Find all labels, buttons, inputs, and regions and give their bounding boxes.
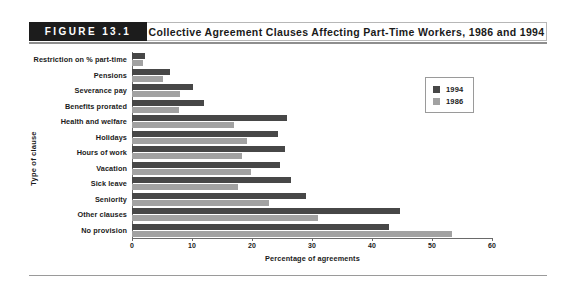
bar-1994: [132, 84, 193, 90]
y-axis-tick-label: Health and welfare: [0, 114, 127, 130]
chart-category-row: Seniority: [132, 192, 492, 208]
bar-1986: [132, 153, 242, 159]
bar-1986: [132, 200, 269, 206]
chart-category-row: Hours of work: [132, 145, 492, 161]
legend-swatch-icon: [433, 86, 440, 93]
y-axis-tick-label: No provision: [0, 223, 127, 239]
y-axis-tick-label: Sick leave: [0, 176, 127, 192]
y-axis-tick-label: Benefits prorated: [0, 99, 127, 115]
header-divider: [29, 42, 547, 44]
bar-1994: [132, 177, 291, 183]
bar-1994: [132, 162, 280, 168]
bar-1986: [132, 138, 247, 144]
x-axis-tick: [492, 238, 493, 241]
chart-category-row: No provision: [132, 223, 492, 239]
x-axis-tick: [312, 238, 313, 241]
bar-1986: [132, 122, 234, 128]
bar-1994: [132, 131, 278, 137]
bar-1994: [132, 100, 204, 106]
x-axis-tick-label: 50: [417, 242, 447, 249]
x-axis-tick: [372, 238, 373, 241]
y-axis-tick-label: Holidays: [0, 130, 127, 146]
legend-label: 1986: [446, 97, 464, 106]
y-axis-tick-label: Pensions: [0, 68, 127, 84]
y-axis-tick-label: Seniority: [0, 192, 127, 208]
x-axis-tick-label: 40: [357, 242, 387, 249]
x-axis-title: Percentage of agreements: [132, 254, 493, 263]
legend-item: 1994: [433, 83, 464, 95]
y-axis-tick-label: Restriction on % part-time: [0, 52, 127, 68]
bar-1986: [132, 184, 238, 190]
legend-swatch-icon: [433, 98, 440, 105]
bar-1994: [132, 53, 145, 59]
chart-legend: 19941986: [425, 77, 474, 113]
x-axis-tick-label: 60: [477, 242, 507, 249]
figure-number-badge: FIGURE 13.1: [29, 22, 147, 41]
legend-item: 1986: [433, 95, 464, 107]
legend-label: 1994: [446, 85, 464, 94]
figure-bottom-rule: [29, 275, 547, 276]
chart-area: Type of clause Restriction on % part-tim…: [0, 46, 576, 261]
bar-1986: [132, 76, 163, 82]
chart-category-row: Sick leave: [132, 176, 492, 192]
x-axis-tick: [132, 238, 133, 241]
y-axis-tick-label: Hours of work: [0, 145, 127, 161]
bar-1986: [132, 169, 251, 175]
bar-1994: [132, 69, 170, 75]
bar-1994: [132, 208, 400, 214]
bar-1994: [132, 115, 287, 121]
x-axis-tick-label: 20: [237, 242, 267, 249]
bar-1994: [132, 146, 285, 152]
chart-category-row: Restriction on % part-time: [132, 52, 492, 68]
x-axis-tick: [192, 238, 193, 241]
y-axis-tick-label: Other clauses: [0, 207, 127, 223]
y-axis-tick-label: Severance pay: [0, 83, 127, 99]
bar-1994: [132, 224, 389, 230]
bar-1986: [132, 215, 318, 221]
bar-1986: [132, 231, 452, 237]
x-axis-tick-label: 30: [297, 242, 327, 249]
figure-header: FIGURE 13.1 Collective Agreement Clauses…: [29, 22, 547, 41]
chart-category-row: Health and welfare: [132, 114, 492, 130]
x-axis-tick-label: 10: [177, 242, 207, 249]
chart-category-row: Other clauses: [132, 207, 492, 223]
x-axis-tick: [432, 238, 433, 241]
figure-title: Collective Agreement Clauses Affecting P…: [147, 22, 547, 41]
x-axis-tick: [252, 238, 253, 241]
bar-1986: [132, 107, 179, 113]
bar-1986: [132, 60, 143, 66]
bar-1994: [132, 193, 306, 199]
chart-category-row: Holidays: [132, 130, 492, 146]
bar-1986: [132, 91, 180, 97]
x-axis-tick-label: 0: [117, 242, 147, 249]
chart-category-row: Vacation: [132, 161, 492, 177]
y-axis-tick-label: Vacation: [0, 161, 127, 177]
